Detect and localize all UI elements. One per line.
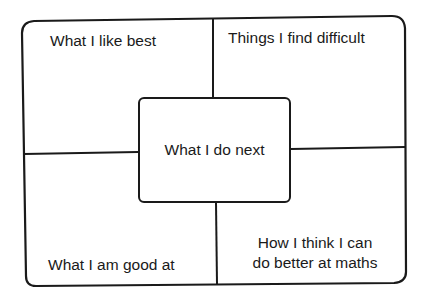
divider-horizontal-left	[24, 152, 138, 154]
divider-horizontal-right	[291, 147, 405, 149]
quadrant-bottom-left-label: What I am good at	[48, 255, 175, 275]
center-box-label: What I do next	[165, 140, 265, 160]
quadrant-top-right-label: Things I find difficult	[228, 28, 365, 48]
divider-vertical-bottom	[216, 203, 217, 284]
quadrant-bottom-right-label: How I think I can do better at maths	[240, 233, 390, 273]
quadrant-bottom-right-line2: do better at maths	[240, 253, 390, 273]
reflection-diagram: What I like best Things I find difficult…	[0, 0, 430, 302]
center-box: What I do next	[138, 97, 291, 203]
quadrant-top-left-label: What I like best	[50, 31, 156, 51]
quadrant-bottom-right-line1: How I think I can	[240, 233, 390, 253]
